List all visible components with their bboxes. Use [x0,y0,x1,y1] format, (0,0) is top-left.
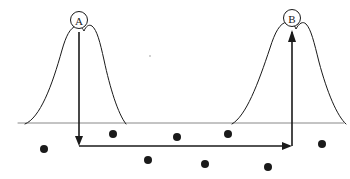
arrowhead-up-icon [288,30,296,42]
scatter-dot [144,156,152,164]
circle-label-b-text: B [288,13,295,25]
peak-curve-b [232,22,346,124]
circle-label-a-text: A [75,15,83,27]
scan-speck [149,55,151,57]
diagram-svg: A B [0,0,350,179]
scatter-dot [201,160,209,168]
scatter-dot [318,140,326,148]
arrowhead-group [75,30,296,150]
arrowhead-down-icon [75,136,83,146]
scatter-dot [173,133,181,141]
scatter-dot [264,163,272,171]
circle-label-a: A [71,12,88,29]
figure-canvas: A B [0,0,350,179]
scatter-dot [224,130,232,138]
scatter-dot [40,145,48,153]
arrowhead-right-icon [282,142,292,150]
circle-label-b: B [284,10,301,27]
scatter-dot [109,130,117,138]
peak-curve-a [25,25,126,124]
